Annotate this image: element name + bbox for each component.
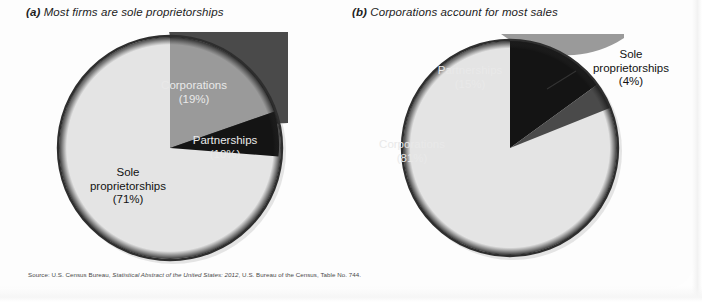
figure-container: (a) Most firms are sole proprietorships … xyxy=(0,0,702,302)
plate-edge-right xyxy=(692,0,702,302)
plate-edge-bottom xyxy=(0,286,702,302)
pie-b-label-partnerships-name: Partnerships xyxy=(408,64,532,78)
panel-a-title-text: Most firms are sole proprietorships xyxy=(44,6,224,18)
pie-b-label-sole-line1: Sole xyxy=(575,48,687,62)
pie-a-label-partnerships-name: Partnerships xyxy=(170,134,280,148)
pie-b-label-sole-line2: proprietorships xyxy=(575,62,687,76)
pie-b-label-corporations-pct: (81%) xyxy=(348,152,476,166)
panel-b-title: (b) Corporations account for most sales xyxy=(352,6,558,18)
source-italic-title: Statistical Abstract of the United State… xyxy=(112,271,238,278)
pie-a-label-sole-pct: (71%) xyxy=(64,193,192,207)
pie-b-label-corporations: Corporations (81%) xyxy=(348,138,476,165)
pie-a-label-corporations-name: Corporations xyxy=(134,79,254,93)
pie-b-label-sole-proprietorships: Sole proprietorships (4%) xyxy=(575,48,687,89)
pie-a-label-sole-proprietorships: Sole proprietorships (71%) xyxy=(64,166,192,207)
source-note: Source: U.S. Census Bureau, Statistical … xyxy=(28,270,361,279)
pie-b-label-sole-pct: (4%) xyxy=(575,75,687,89)
pie-a-label-partnerships: Partnerships (10%) xyxy=(170,134,280,161)
panel-b-tag: (b) xyxy=(352,6,367,18)
pie-a-label-partnerships-pct: (10%) xyxy=(170,148,280,162)
pie-b-label-corporations-name: Corporations xyxy=(348,138,476,152)
pie-a-label-sole-line2: proprietorships xyxy=(64,180,192,194)
source-prefix: Source: U.S. Census Bureau, xyxy=(28,271,111,278)
pie-b-label-partnerships: Partnerships (15%) xyxy=(408,64,532,91)
panel-a-tag: (a) xyxy=(26,6,40,18)
panel-a-title: (a) Most firms are sole proprietorships xyxy=(26,6,224,18)
pie-chart-a: Corporations (19%) Partnerships (10%) So… xyxy=(54,32,288,266)
panel-b-title-text: Corporations account for most sales xyxy=(370,6,558,18)
pie-a-label-corporations-pct: (19%) xyxy=(134,93,254,107)
pie-b-label-partnerships-pct: (15%) xyxy=(408,78,532,92)
source-suffix: , U.S. Bureau of the Census, Table No. 7… xyxy=(239,271,361,278)
pie-a-label-corporations: Corporations (19%) xyxy=(134,79,254,106)
pie-a-label-sole-line1: Sole xyxy=(64,166,192,180)
